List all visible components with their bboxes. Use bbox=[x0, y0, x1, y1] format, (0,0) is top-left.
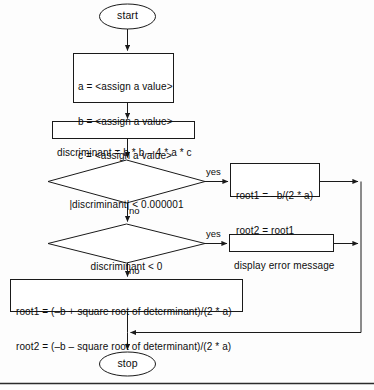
decision-zero-node-label: |discriminant| < 0.000001 bbox=[58, 176, 195, 234]
discriminant-node-label: discriminant = b * b – 4 * a * c bbox=[57, 124, 192, 182]
edge-label-zero-no: no bbox=[129, 205, 140, 216]
assign-node-line-1: a = <assign a value> bbox=[78, 81, 173, 93]
decision-zero-node-line-1: |discriminant| < 0.000001 bbox=[58, 199, 195, 211]
error-node-label: display error message bbox=[234, 237, 334, 295]
double-root-node-line-2: root2 = root1 bbox=[236, 225, 313, 237]
error-node-line-1: display error message bbox=[234, 260, 334, 272]
discriminant-node-line-1: discriminant = b * b – 4 * a * c bbox=[57, 147, 192, 159]
start-node-label: start bbox=[99, 10, 156, 22]
edge-label-zero-yes: yes bbox=[206, 166, 221, 177]
flowchart-canvas: start a = <assign a value> b = <assign a… bbox=[0, 0, 374, 390]
decision-negative-node-line-1: discriminant < 0 bbox=[58, 261, 195, 273]
two-roots-node-line-1: root1 = (–b + square root of determinant… bbox=[16, 306, 232, 318]
double-root-node-line-1: root1 = –b/(2 * a) bbox=[236, 190, 313, 202]
edge-label-negative-no: no bbox=[129, 265, 140, 276]
edge-label-negative-yes: yes bbox=[206, 228, 221, 239]
stop-node-label: stop bbox=[99, 358, 156, 370]
two-roots-node-line-2: root2 = (–b – square root of determinant… bbox=[16, 341, 232, 353]
